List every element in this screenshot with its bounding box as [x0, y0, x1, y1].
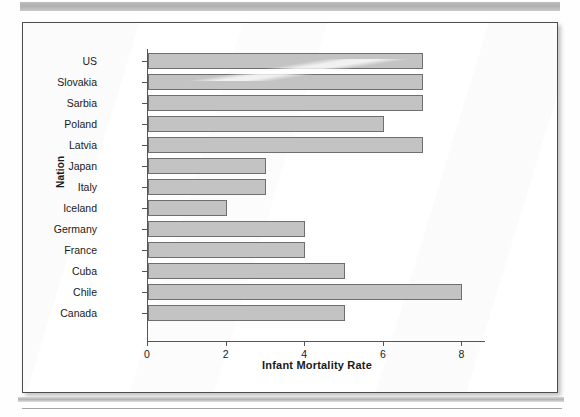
page-top-rule — [20, 2, 560, 11]
y-axis-tick-mark — [142, 313, 147, 314]
bar — [148, 137, 423, 153]
bar — [148, 242, 305, 258]
bar-row: Canada — [23, 303, 559, 324]
bar-row: Japan — [23, 156, 559, 177]
plot-area: Nation USSlovakiaSarbiaPolandLatviaJapan… — [23, 23, 557, 392]
bar-row: Germany — [23, 219, 559, 240]
y-axis-tick-mark — [142, 292, 147, 293]
x-axis-tick-mark — [461, 341, 462, 346]
bar — [148, 116, 384, 132]
y-axis-tick-mark — [142, 166, 147, 167]
page-bottom-rule-thick — [18, 397, 564, 402]
y-axis-tick-label: France — [64, 244, 97, 256]
y-axis-tick-label: Germany — [54, 223, 97, 235]
y-axis-tick-mark — [142, 250, 147, 251]
y-axis-tick-label: Cuba — [72, 265, 97, 277]
x-axis-tick-mark — [226, 341, 227, 346]
page-bottom-rule-thin — [22, 408, 562, 409]
scanned-page: Nation USSlovakiaSarbiaPolandLatviaJapan… — [0, 0, 580, 417]
bar-row: Cuba — [23, 261, 559, 282]
bar-row: Italy — [23, 177, 559, 198]
bar-row: Iceland — [23, 198, 559, 219]
y-axis-tick-label: Iceland — [63, 202, 97, 214]
y-axis-tick-mark — [142, 61, 147, 62]
x-axis-tick-mark — [147, 341, 148, 346]
x-axis-tick-mark — [304, 341, 305, 346]
bar — [148, 263, 345, 279]
bar — [148, 53, 423, 69]
bar-row: France — [23, 240, 559, 261]
y-axis-tick-mark — [142, 103, 147, 104]
y-axis-tick-label: Latvia — [69, 139, 97, 151]
bar-row: Latvia — [23, 135, 559, 156]
bar-row: US — [23, 51, 559, 72]
y-axis-tick-mark — [142, 208, 147, 209]
y-axis-tick-label: Sarbia — [67, 97, 97, 109]
bar — [148, 200, 227, 216]
figure-frame: Nation USSlovakiaSarbiaPolandLatviaJapan… — [22, 22, 558, 393]
bar-row: Chile — [23, 282, 559, 303]
bar-row: Sarbia — [23, 93, 559, 114]
y-axis-tick-label: Japan — [68, 160, 97, 172]
bar — [148, 179, 266, 195]
y-axis-tick-mark — [142, 229, 147, 230]
x-axis-line — [147, 341, 485, 342]
y-axis-tick-label: Italy — [78, 181, 97, 193]
y-axis-tick-label: Poland — [64, 118, 97, 130]
y-axis-tick-mark — [142, 124, 147, 125]
x-axis-title: Infant Mortality Rate — [147, 359, 487, 371]
x-axis-tick-mark — [383, 341, 384, 346]
bar — [148, 95, 423, 111]
y-axis-tick-mark — [142, 271, 147, 272]
y-axis-tick-label: Chile — [73, 286, 97, 298]
bar — [148, 221, 305, 237]
bar — [148, 284, 462, 300]
y-axis-tick-mark — [142, 145, 147, 146]
bar-row: Poland — [23, 114, 559, 135]
bar-row: Slovakia — [23, 72, 559, 93]
bar — [148, 158, 266, 174]
y-axis-tick-label: US — [82, 55, 97, 67]
y-axis-tick-label: Canada — [60, 307, 97, 319]
y-axis-tick-mark — [142, 82, 147, 83]
y-axis-tick-label: Slovakia — [57, 76, 97, 88]
bar — [148, 74, 423, 90]
y-axis-tick-mark — [142, 187, 147, 188]
bar — [148, 305, 345, 321]
